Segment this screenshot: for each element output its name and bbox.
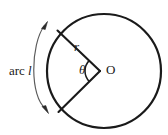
radius-line-lower [59, 71, 101, 112]
arc-length-symbol: l [25, 63, 32, 78]
angle-theta-label: θ [79, 63, 85, 76]
circle-outline [47, 14, 161, 128]
geometry-figure: arcl r θ O [0, 0, 168, 135]
radius-label: r [74, 40, 79, 53]
center-point-label: O [106, 63, 115, 76]
arc-label-prefix: arc [9, 63, 25, 78]
arc-length-indicator-curve [34, 26, 46, 109]
arc-indicator-arrowhead-top [42, 22, 48, 30]
angle-arc-marker [85, 60, 89, 81]
arc-indicator-arrowhead-bottom [42, 106, 49, 114]
arc-length-label: arcl [9, 64, 32, 77]
